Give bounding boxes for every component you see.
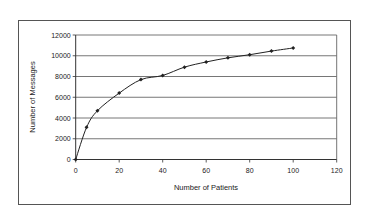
y-tick-label: 10000 (51, 52, 71, 59)
x-tick-label: 0 (74, 167, 78, 174)
x-tick-label: 60 (202, 167, 210, 174)
x-tick-label: 120 (331, 167, 343, 174)
tick-labels: 0200040006000800010000120000204060801001… (51, 32, 342, 174)
series-line (76, 48, 294, 160)
y-tick-label: 2000 (55, 135, 71, 142)
y-tick-label: 4000 (55, 115, 71, 122)
diamond-marker (139, 78, 143, 82)
y-tick-label: 8000 (55, 73, 71, 80)
diamond-marker (204, 60, 208, 64)
y-tick-label: 6000 (55, 94, 71, 101)
diamond-marker (74, 158, 78, 162)
x-axis-title: Number of Patients (174, 183, 238, 192)
x-tick-label: 80 (246, 167, 254, 174)
data-series (74, 46, 296, 162)
x-tick-label: 100 (287, 167, 299, 174)
gridlines (76, 35, 337, 160)
y-tick-label: 0 (67, 156, 71, 163)
y-tick-label: 12000 (51, 32, 71, 39)
x-tick-label: 40 (159, 167, 167, 174)
y-axis-title: Number of Messages (28, 61, 37, 133)
diamond-marker (226, 56, 230, 60)
line-chart: 0200040006000800010000120000204060801001… (0, 0, 365, 213)
x-tick-label: 20 (115, 167, 123, 174)
diamond-marker (269, 49, 273, 53)
diamond-marker (85, 125, 89, 129)
diamond-marker (291, 46, 295, 50)
diamond-marker (182, 65, 186, 69)
